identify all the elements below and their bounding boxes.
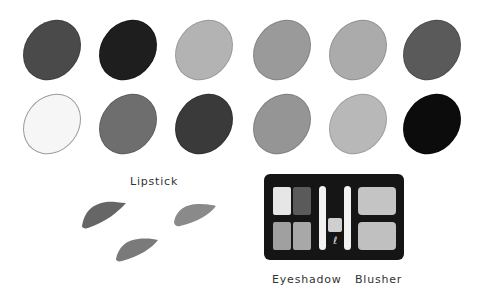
swatch-8 [87,82,169,166]
eyeshadow-pan-3 [273,222,291,250]
logo-icon: ℓ [328,234,342,248]
applicator-left [319,186,326,250]
swatch-7 [11,82,93,166]
swatch-3 [163,8,245,92]
swatch-12 [391,82,473,166]
applicator-right [344,186,351,250]
center-pan [328,218,342,232]
lipstick-sample-3 [116,239,158,262]
eyeshadow-label: Eyeshadow [272,273,342,286]
blusher-pan-2 [358,222,396,250]
eyeshadow-blusher-palette: ℓ [264,174,404,260]
swatch-10 [241,82,323,166]
swatch-2 [87,8,169,92]
eyeshadow-pan-1 [273,187,291,215]
blusher-pan-1 [358,187,396,215]
swatch-4 [241,8,323,92]
lipstick-sample-2 [174,204,216,226]
lipstick-samples [78,192,218,267]
swatch-5 [317,8,399,92]
eyeshadow-pan-4 [293,222,311,250]
blusher-label: Blusher [355,273,402,286]
swatch-9 [163,82,245,166]
swatch-1 [11,8,93,92]
lipstick-label: Lipstick [130,175,178,188]
lipstick-sample-1 [82,202,126,229]
swatch-11 [317,82,399,166]
swatch-6 [391,8,473,92]
eyeshadow-pan-2 [293,187,311,215]
